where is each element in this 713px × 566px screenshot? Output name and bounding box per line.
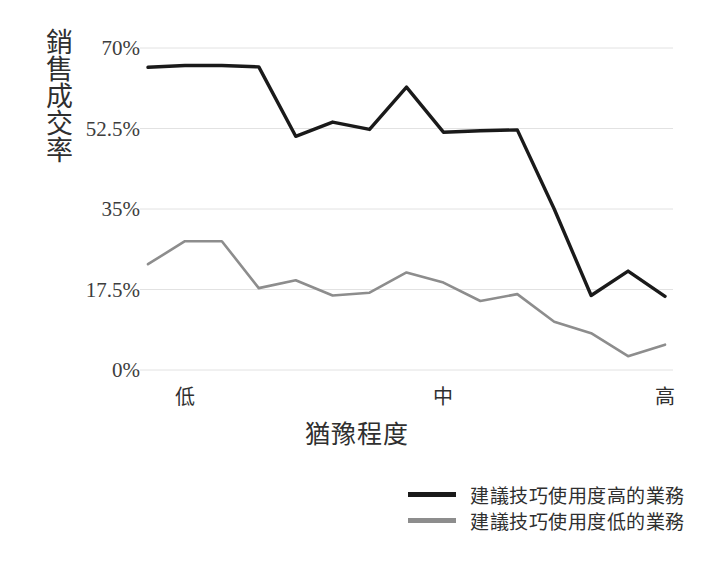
legend-label: 建議技巧使用度高的業務	[470, 481, 685, 508]
line-chart: 銷售成交率 70%52.5%35%17.5%0% 低中高 猶豫程度 建議技巧使用…	[0, 0, 713, 566]
x-axis-tick-label: 高	[655, 381, 675, 410]
gridlines	[140, 48, 673, 370]
series-lines	[148, 65, 665, 356]
series-line	[148, 241, 665, 356]
legend-label: 建議技巧使用度低的業務	[470, 507, 685, 534]
legend-line-swatch	[408, 518, 456, 523]
legend-item[interactable]: 建議技巧使用度低的業務	[408, 508, 688, 532]
x-axis-title: 猶豫程度	[0, 414, 713, 450]
legend-item[interactable]: 建議技巧使用度高的業務	[408, 482, 688, 506]
x-axis-tick-label: 低	[175, 381, 195, 410]
x-axis-tick-label: 中	[433, 381, 453, 410]
chart-legend: 建議技巧使用度高的業務建議技巧使用度低的業務	[408, 482, 688, 534]
legend-line-swatch	[408, 492, 456, 497]
series-line	[148, 65, 665, 296]
